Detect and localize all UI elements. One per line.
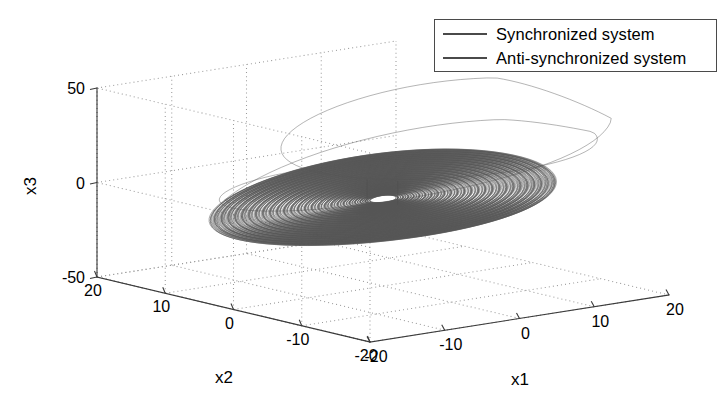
legend-entry-synchronized: Synchronized system bbox=[435, 22, 655, 46]
x1-tick-label: 10 bbox=[591, 313, 609, 330]
legend: Synchronized system Anti-synchronized sy… bbox=[434, 19, 717, 72]
legend-label-anti-synchronized: Anti-synchronized system bbox=[496, 49, 686, 68]
legend-entry-anti-synchronized: Anti-synchronized system bbox=[435, 46, 686, 70]
x1-tick-label: -10 bbox=[439, 336, 462, 353]
ztick-label: 50 bbox=[67, 80, 85, 97]
legend-label-synchronized: Synchronized system bbox=[496, 25, 655, 44]
trajectory-layer bbox=[209, 78, 611, 246]
ztick-label: -50 bbox=[62, 269, 85, 286]
x2-tick-label: 0 bbox=[225, 315, 234, 332]
axis-title-x1: x1 bbox=[511, 370, 529, 389]
x2-tick-label: 10 bbox=[152, 298, 170, 315]
x2-tick-label: 20 bbox=[84, 282, 102, 299]
legend-line-swatch-synchronized bbox=[443, 33, 487, 35]
x1-tick-label: -20 bbox=[364, 348, 387, 365]
legend-line-swatch-anti-synchronized bbox=[443, 57, 487, 59]
x2-tick-label: -10 bbox=[286, 331, 309, 348]
x1-tick-label: 20 bbox=[666, 301, 684, 318]
x1-tick-label: 0 bbox=[521, 325, 530, 342]
figure-3d-attractor-plot: 500-5020100-10-20-20-1001020x3x2x1 Synch… bbox=[0, 0, 728, 415]
ztick-label: 0 bbox=[76, 175, 85, 192]
axis-title-x3: x3 bbox=[21, 177, 40, 195]
axis-title-x2: x2 bbox=[215, 368, 233, 387]
